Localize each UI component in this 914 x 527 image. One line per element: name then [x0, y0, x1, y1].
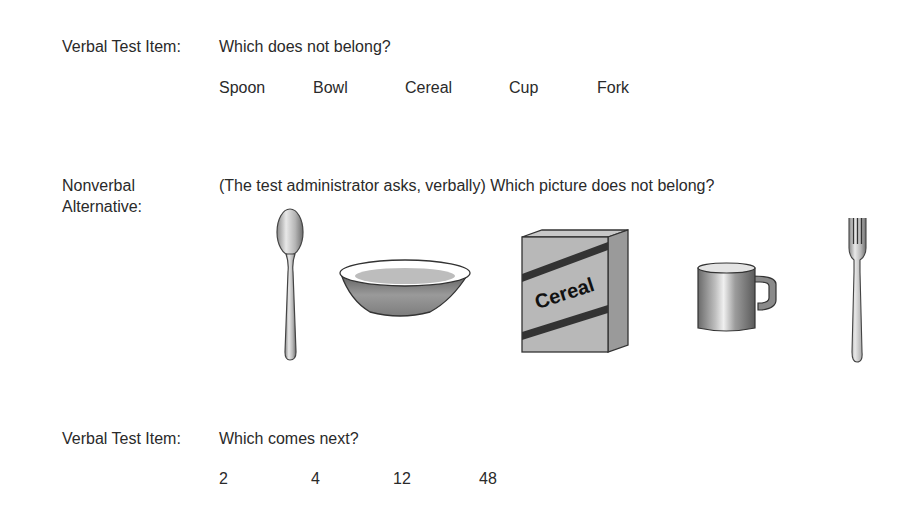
spoon-icon — [277, 209, 303, 360]
cup-icon — [698, 263, 776, 331]
verbal-test-item-label-2: Verbal Test Item: — [62, 429, 181, 449]
number-12: 12 — [393, 469, 411, 489]
question-which-comes-next: Which comes next? — [219, 429, 359, 449]
number-2: 2 — [219, 469, 228, 489]
bowl-icon — [340, 260, 470, 316]
number-48: 48 — [479, 469, 497, 489]
cereal-box-icon: Cereal — [522, 230, 628, 352]
fork-icon — [849, 218, 866, 362]
number-4: 4 — [311, 469, 320, 489]
